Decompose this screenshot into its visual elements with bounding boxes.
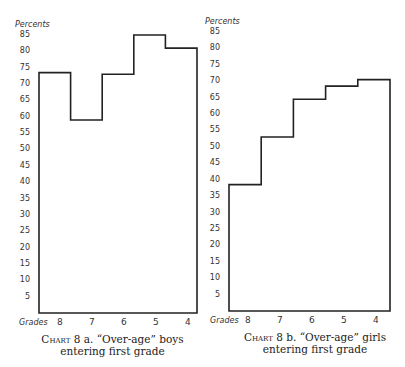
step-outline (39, 35, 197, 313)
x-tick-label: 7 (277, 315, 283, 325)
caption-title: 8 a. “Over-age” boys (70, 333, 183, 345)
x-axis-label: Grades (210, 316, 239, 325)
x-tick-label: 5 (153, 317, 159, 327)
chart-caption: Chart 8 a. “Over-age” boys entering firs… (20, 333, 205, 357)
x-tick-label: 8 (57, 317, 63, 327)
caption-title: 8 b. “Over-age” girls (273, 331, 386, 343)
chart-8b: Percents 8580757065605550454035302520151… (200, 0, 405, 367)
x-tick-label: 6 (309, 315, 315, 325)
x-tick-label: 8 (245, 315, 251, 325)
chart-caption: Chart 8 b. “Over-age” girls entering fir… (230, 331, 400, 355)
caption-subtitle: entering first grade (20, 345, 205, 357)
x-tick-label: 5 (341, 315, 347, 325)
x-tick-label: 7 (89, 317, 95, 327)
chart-8a: Percents 8580757065605550454035302520151… (0, 0, 200, 367)
x-tick-label: 4 (373, 315, 379, 325)
step-bars (0, 0, 200, 320)
caption-subtitle: entering first grade (230, 343, 400, 355)
caption-prefix: Chart (41, 333, 70, 345)
x-axis-label: Grades (19, 318, 48, 327)
x-tick-label: 4 (185, 317, 191, 327)
step-outline (229, 80, 390, 311)
caption-prefix: Chart (244, 331, 273, 343)
step-bars (200, 0, 405, 320)
x-tick-label: 6 (121, 317, 127, 327)
